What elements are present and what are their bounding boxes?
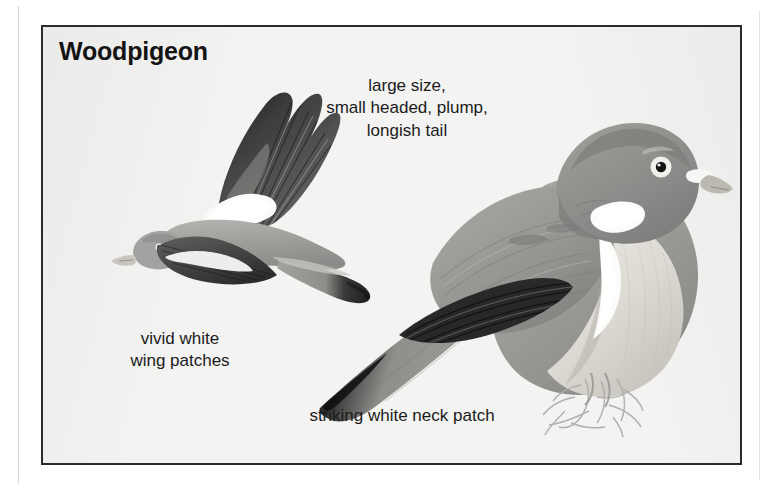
page-edge-rule-right [759, 10, 760, 480]
caption-wing-patches: vivid white wing patches [86, 328, 274, 373]
caption-traits: large size, small headed, plump, longish… [295, 75, 519, 142]
page-title: Woodpigeon [59, 37, 208, 66]
perched-head [557, 123, 734, 244]
page-canvas: Woodpigeon [0, 0, 767, 491]
illustration-plate: Woodpigeon [41, 25, 742, 465]
caption-neck-patch: striking white neck patch [271, 405, 533, 427]
page-edge-rule-left [18, 6, 19, 484]
